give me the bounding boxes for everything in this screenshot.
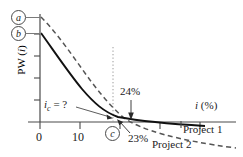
pw-vs-interest-rate-chart: PW (i) i (%) 0 10 a b c ic = ? 24% 23% P… bbox=[0, 0, 243, 157]
marker-b-connector bbox=[26, 33, 41, 34]
x-tick-label-10: 10 bbox=[72, 131, 84, 143]
marker-a-connector bbox=[26, 17, 41, 18]
rate-23-label: 23% bbox=[128, 133, 148, 144]
ic-leader-line bbox=[76, 107, 113, 119]
ic-subscript: c bbox=[47, 104, 51, 113]
project2-series-label: Project 2 bbox=[152, 139, 191, 150]
ic-equals: = ? bbox=[53, 98, 67, 110]
rate-24-arrow bbox=[128, 100, 134, 120]
y-axis-title-end: ) bbox=[15, 45, 27, 49]
circle-b-label: b bbox=[16, 28, 21, 39]
y-axis-title: PW (i) bbox=[13, 37, 29, 83]
x-axis-title-var: i bbox=[195, 99, 198, 111]
project1-series-label: Project 1 bbox=[183, 124, 222, 135]
circle-a-label: a bbox=[16, 12, 21, 23]
project2-start-marker: a bbox=[11, 10, 26, 25]
x-tick-label-0: 0 bbox=[36, 131, 42, 143]
y-axis-title-text: PW ( bbox=[15, 52, 27, 75]
crossover-marker: c bbox=[105, 126, 120, 141]
circle-c-label: c bbox=[110, 128, 114, 139]
x-axis-title-unit: (%) bbox=[201, 99, 218, 111]
y-axis-ticks bbox=[34, 34, 40, 100]
x-axis-title: i (%) bbox=[195, 100, 217, 111]
rate-24-label: 24% bbox=[120, 86, 140, 97]
project1-start-marker: b bbox=[11, 26, 26, 41]
y-axis-title-var: i bbox=[15, 49, 27, 52]
ic-question-label: ic = ? bbox=[44, 99, 67, 113]
